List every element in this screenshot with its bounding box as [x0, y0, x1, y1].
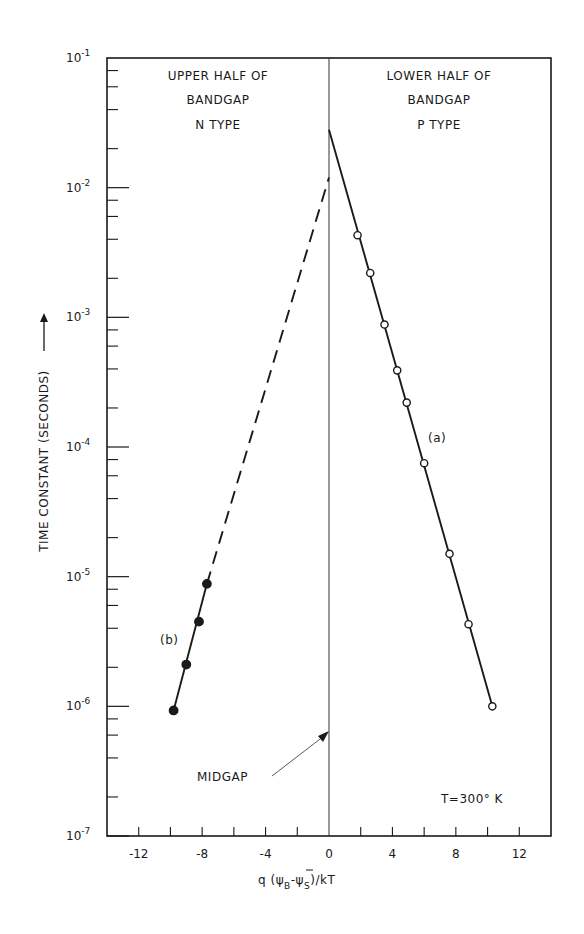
region-label-lower-1: LOWER HALF OF [387, 69, 492, 83]
series-layer [169, 130, 496, 715]
x-label-psi-s: ψ [296, 873, 304, 887]
y-tick-label: 10-1 [66, 48, 90, 65]
y-tick-label: 10-4 [66, 437, 91, 454]
y-tick-label: 10-7 [66, 826, 90, 843]
x-axis-tick-labels: -12-8-404812 [129, 847, 527, 861]
time-constant-chart: 10-110-210-310-410-510-610-7 -12-8-40481… [0, 0, 584, 934]
data-point [446, 550, 453, 557]
y-tick-label: 10-6 [66, 696, 91, 713]
data-point [403, 399, 410, 406]
data-point [354, 232, 361, 239]
midgap-arrow-head [318, 731, 329, 742]
region-label-lower-2: BANDGAP [408, 93, 471, 107]
region-label-upper-3: N TYPE [195, 118, 240, 132]
data-point [203, 580, 211, 588]
region-label-upper-1: UPPER HALF OF [168, 69, 268, 83]
x-label-tail: )/kT [310, 873, 335, 887]
data-point [421, 460, 428, 467]
x-label-sub-b: B [284, 881, 291, 891]
y-axis-arrow-head [40, 313, 48, 322]
series-a-label: (a) [428, 431, 446, 445]
midgap-label: MIDGAP [197, 770, 248, 784]
y-axis-ticks [107, 71, 129, 836]
data-point [394, 367, 401, 374]
x-tick-label: 8 [452, 847, 460, 861]
data-point [169, 706, 177, 714]
series-a [329, 130, 496, 710]
region-label-lower-3: P TYPE [417, 118, 461, 132]
temperature-label: T=300° K [440, 792, 504, 806]
data-point [195, 617, 203, 625]
y-axis-label: TIME CONSTANT (SECONDS) [37, 313, 51, 553]
data-point [489, 703, 496, 710]
x-tick-label: -4 [260, 847, 272, 861]
x-tick-label: 0 [325, 847, 333, 861]
data-point [182, 660, 190, 668]
series-b [169, 177, 329, 714]
x-tick-label: -8 [196, 847, 208, 861]
midgap-arrow-line [272, 736, 324, 776]
x-tick-label: 12 [512, 847, 527, 861]
y-tick-label: 10-3 [66, 307, 90, 324]
y-tick-label: 10-2 [66, 178, 90, 195]
svg-text:q (ψB-ψS)/kT: q (ψB-ψS)/kT [258, 873, 335, 891]
data-point [367, 269, 374, 276]
series-b-label: (b) [160, 633, 178, 647]
region-label-upper-2: BANDGAP [187, 93, 250, 107]
x-label-psi-b: ψ [276, 873, 284, 887]
data-point [465, 621, 472, 628]
x-tick-label: -12 [129, 847, 149, 861]
y-axis-tick-labels: 10-110-210-310-410-510-610-7 [66, 48, 91, 843]
x-tick-label: 4 [389, 847, 397, 861]
y-tick-label: 10-5 [66, 567, 90, 584]
x-label-q: q ( [258, 873, 276, 887]
y-axis-label-text: TIME CONSTANT (SECONDS) [37, 370, 51, 553]
x-axis-label: q (ψB-ψS)/kT [258, 870, 335, 891]
data-point [381, 321, 388, 328]
